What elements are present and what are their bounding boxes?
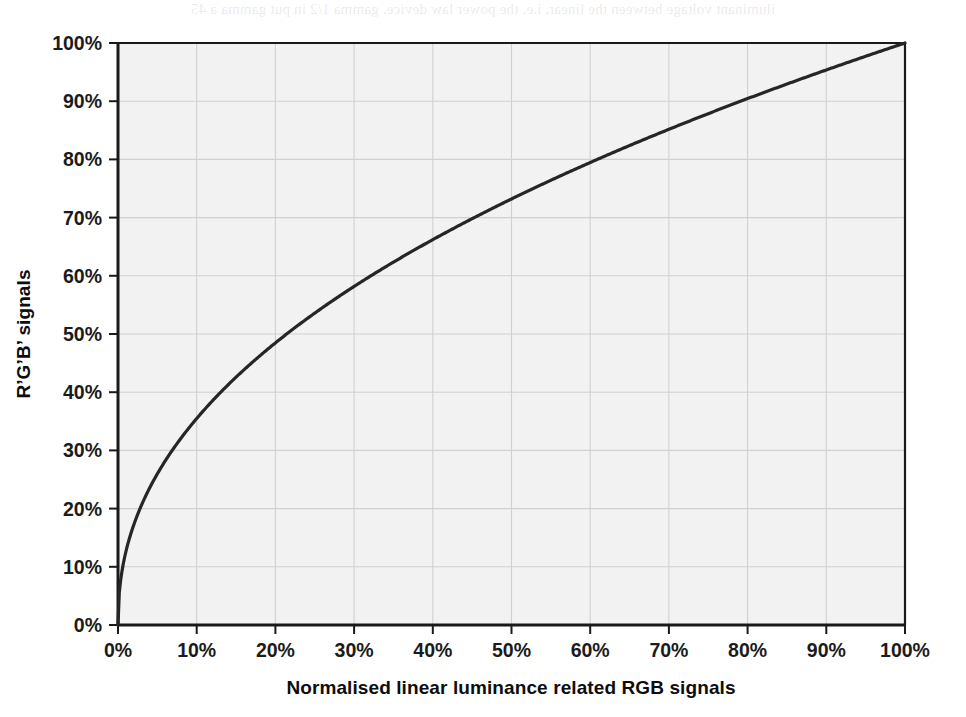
x-axis-title: Normalised linear luminance related RGB … bbox=[286, 677, 735, 698]
y-axis-tick-label: 100% bbox=[52, 32, 102, 54]
y-axis-tick-label: 10% bbox=[63, 556, 102, 578]
figure-container: 0%10%20%30%40%50%60%70%80%90%100% 0%10%2… bbox=[0, 0, 966, 717]
x-axis-tick-label: 0% bbox=[104, 639, 132, 661]
y-axis-tick-label: 90% bbox=[63, 90, 102, 112]
x-axis-tick-label: 60% bbox=[571, 639, 610, 661]
x-axis-tick-label: 80% bbox=[728, 639, 767, 661]
x-axis-tick-label: 90% bbox=[807, 639, 846, 661]
y-axis-title: R’G’B’ signals bbox=[13, 269, 34, 398]
x-axis-tick-label: 20% bbox=[256, 639, 295, 661]
y-axis-tick-label: 60% bbox=[63, 265, 102, 287]
y-axis-tick-label: 40% bbox=[63, 381, 102, 403]
y-axis-tick-label: 80% bbox=[63, 148, 102, 170]
x-axis-tick-labels: 0%10%20%30%40%50%60%70%80%90%100% bbox=[104, 639, 930, 661]
x-axis-tick-label: 30% bbox=[335, 639, 374, 661]
y-axis-tick-label: 50% bbox=[63, 323, 102, 345]
y-axis-tick-label: 20% bbox=[63, 498, 102, 520]
y-axis-tick-label: 30% bbox=[63, 439, 102, 461]
y-axis-tick-label: 0% bbox=[74, 614, 102, 636]
y-axis-tick-labels: 0%10%20%30%40%50%60%70%80%90%100% bbox=[52, 32, 102, 636]
x-axis-tick-label: 10% bbox=[177, 639, 216, 661]
x-axis-tick-label: 50% bbox=[492, 639, 531, 661]
x-axis-tick-label: 70% bbox=[649, 639, 688, 661]
x-axis-tick-label: 40% bbox=[413, 639, 452, 661]
x-axis-tick-label: 100% bbox=[880, 639, 930, 661]
y-axis-tick-label: 70% bbox=[63, 207, 102, 229]
transfer-curve-chart: 0%10%20%30%40%50%60%70%80%90%100% 0%10%2… bbox=[0, 0, 966, 717]
